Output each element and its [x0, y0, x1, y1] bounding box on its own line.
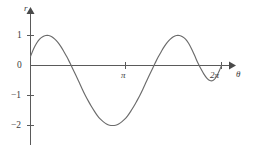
figure-container: r θ 1 0 −1 −2 π 2π [0, 0, 253, 151]
x-tick-label-2pi: 2π [210, 71, 219, 80]
y-tick-label-minus2: −2 [11, 121, 21, 131]
x-axis-label: θ [236, 70, 240, 79]
y-tick-label-minus1: −1 [11, 91, 21, 101]
x-tick-label-pi: π [121, 71, 126, 80]
y-tick-label-1: 1 [17, 31, 22, 41]
y-axis-label: r [24, 4, 28, 13]
y-tick-label-0: 0 [17, 61, 22, 71]
x-axis-arrowhead [229, 62, 236, 70]
data-curve [31, 35, 222, 125]
